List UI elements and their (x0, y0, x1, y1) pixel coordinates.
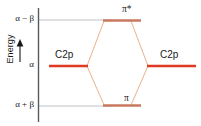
orbital-label-pi-bonding: π (124, 94, 129, 104)
orbital-label-pi-antibonding: π* (122, 5, 132, 15)
energy-arrow-icon (17, 39, 24, 62)
connector-right-upper (131, 21, 148, 66)
axis-tick-label-bottom: α + β (2, 100, 34, 109)
connector-left-upper (87, 21, 104, 66)
connector-left-lower (87, 66, 104, 105)
connector-right-lower (131, 66, 148, 105)
mo-diagram: α − β α α + β Energy π* π C2p C2p (0, 0, 201, 126)
energy-axis-title: Energy (5, 19, 15, 79)
fragment-label-c2p-left: C2p (55, 50, 73, 60)
fragment-label-c2p-right: C2p (160, 50, 178, 60)
